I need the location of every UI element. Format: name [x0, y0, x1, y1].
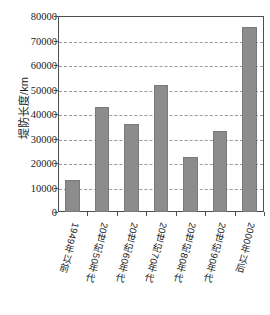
y-axis-tick-mark: [54, 212, 58, 213]
x-axis-tick-mark: [235, 212, 236, 216]
bar[interactable]: [242, 27, 257, 212]
x-axis-tick-mark: [205, 212, 206, 216]
x-axis-tick-mark: [117, 212, 118, 216]
bar[interactable]: [65, 180, 80, 212]
bar-slot: [242, 16, 257, 212]
bar-slot: [213, 16, 228, 212]
x-axis-tick-label: 20世纪50年代: [82, 221, 112, 285]
x-axis-tick-mark: [176, 212, 177, 216]
x-axis-tick-label: 1949年以前: [55, 221, 82, 275]
bar-slot: [95, 16, 110, 212]
bar-slot: [124, 16, 139, 212]
bar-chart: 堤防长度/km 01000020000300004000050000600007…: [0, 0, 270, 315]
y-axis-title: 堤防长度/km: [15, 38, 31, 178]
x-axis-tick-label: 2000年以后: [232, 221, 259, 275]
x-axis-tick-label: 20世纪70年代: [141, 221, 171, 285]
bar-slot: [154, 16, 169, 212]
bar-slot: [183, 16, 198, 212]
x-axis-tick-label: 20世纪60年代: [111, 221, 141, 285]
bar[interactable]: [183, 157, 198, 212]
bar[interactable]: [154, 85, 169, 212]
x-axis-tick-mark: [87, 212, 88, 216]
bar-slot: [65, 16, 80, 212]
bar[interactable]: [213, 131, 228, 212]
x-axis-tick-label: 20世纪80年代: [170, 221, 200, 285]
x-axis-tick-mark: [146, 212, 147, 216]
x-axis-tick-mark: [264, 212, 265, 216]
bar[interactable]: [95, 107, 110, 212]
bar[interactable]: [124, 124, 139, 212]
bar-series: [58, 16, 264, 212]
x-axis-tick-label: 20世纪90年代: [200, 221, 230, 285]
